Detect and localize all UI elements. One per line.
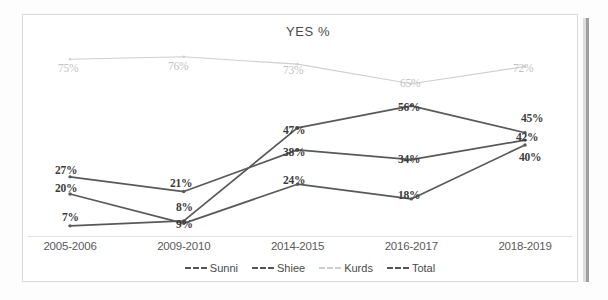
data-point-label: 9%	[176, 218, 193, 230]
x-axis-tick-2016-2017: 2016-2017	[351, 240, 471, 252]
x-axis-tick-2018-2019: 2018-2019	[465, 240, 585, 252]
data-point-marker	[182, 190, 185, 193]
data-point-label: 7%	[62, 211, 79, 223]
legend-item-sunni[interactable]: Sunni	[185, 262, 238, 274]
chart-title: YES %	[248, 24, 368, 39]
data-point-marker	[68, 224, 71, 227]
data-point-label: 72%	[513, 62, 533, 74]
data-point-label: 56%	[398, 101, 420, 113]
legend-item-total[interactable]: Total	[387, 262, 435, 274]
data-point-marker	[69, 58, 72, 61]
legend-dash-icon	[319, 267, 341, 269]
data-point-label: 24%	[283, 174, 305, 186]
data-point-label: 42%	[516, 131, 538, 143]
data-point-label: 18%	[398, 189, 420, 201]
data-point-label: 75%	[58, 62, 78, 74]
data-point-label: 34%	[398, 153, 420, 165]
legend-dash-icon	[185, 267, 207, 269]
data-point-label: 27%	[55, 164, 77, 176]
legend-item-label: Sunni	[210, 262, 238, 274]
data-point-label: 47%	[283, 124, 305, 136]
data-point-marker	[182, 56, 185, 59]
x-axis-tick-2005-2006: 2005-2006	[10, 240, 130, 252]
legend-item-label: Shiee	[277, 262, 305, 274]
x-axis-tick-2009-2010: 2009-2010	[124, 240, 244, 252]
data-point-marker	[523, 143, 526, 146]
data-point-label: 38%	[283, 146, 305, 158]
chart-legend: SunniShieeKurdsTotal	[150, 262, 470, 274]
data-point-label: 73%	[283, 64, 303, 76]
data-point-label: 65%	[400, 77, 420, 89]
x-axis-rule	[28, 236, 572, 237]
data-point-label: 21%	[170, 177, 192, 189]
legend-dash-icon	[387, 267, 409, 269]
legend-item-kurds[interactable]: Kurds	[319, 262, 373, 274]
data-point-label: 20%	[55, 182, 77, 194]
scan-artifact-bar	[586, 18, 589, 282]
x-axis-tick-2014-2015: 2014-2015	[238, 240, 358, 252]
legend-item-shiee[interactable]: Shiee	[252, 262, 305, 274]
data-point-label: 8%	[176, 201, 193, 213]
data-point-label: 45%	[521, 112, 543, 124]
legend-item-label: Total	[412, 262, 435, 274]
legend-item-label: Kurds	[344, 262, 373, 274]
data-point-label: 40%	[519, 151, 541, 163]
data-point-label: 76%	[168, 60, 188, 72]
series-sunni	[68, 104, 526, 227]
legend-dash-icon	[252, 267, 274, 269]
